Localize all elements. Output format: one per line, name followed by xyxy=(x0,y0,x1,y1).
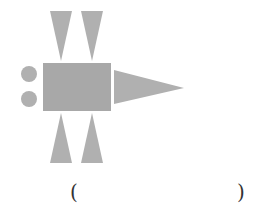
answer-blank[interactable] xyxy=(84,182,234,204)
circle-1 xyxy=(21,66,37,82)
right-triangle xyxy=(114,70,184,104)
bottom-triangle-2 xyxy=(81,113,103,163)
body-rectangle xyxy=(43,63,111,111)
circle-2 xyxy=(21,91,37,107)
answer-open-paren: ( xyxy=(70,182,78,202)
top-triangle-2 xyxy=(81,11,103,61)
answer-close-paren: ) xyxy=(237,182,245,202)
top-triangle-1 xyxy=(50,11,72,61)
bottom-triangle-1 xyxy=(50,113,72,163)
